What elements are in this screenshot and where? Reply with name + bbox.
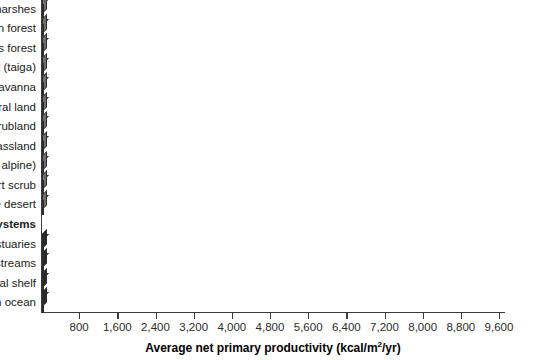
category-axis-labels: Swamps and marshesTropical rain forestTe… [0, 0, 40, 313]
category-label-savanna: Savanna [0, 82, 36, 94]
category-label-marine-ecosystems: Marine Ecosystems [0, 219, 36, 231]
bar-estuaries [42, 239, 433, 254]
x-tick-3200 [194, 313, 195, 319]
bar-savanna [42, 82, 171, 97]
bar-front-face [42, 200, 44, 215]
category-label-woodland-and-shrubland: Woodland and shrubland [0, 121, 36, 133]
x-tick-label-5600: 5,600 [294, 321, 323, 333]
x-tick-8000 [423, 313, 424, 319]
category-label-temperate-deciduous-forest: Temperate deciduous forest [0, 43, 36, 55]
x-tick-label-3200: 3,200 [179, 321, 208, 333]
chart-container: Swamps and marshesTropical rain forestTe… [0, 0, 546, 360]
x-axis-title-prefix: Average net primary productivity (kcal/m [145, 341, 377, 355]
category-label-tundra-arctic-and-alpine: Tundra (arctic and alpine) [0, 160, 36, 172]
x-axis-title-suffix: /yr) [382, 341, 401, 355]
x-tick-1600 [117, 313, 118, 319]
category-label-estuaries: Estuaries [0, 239, 36, 251]
bar-northern-coniferous-forest-taiga [42, 63, 195, 78]
category-label-temperate-grassland: Temperate grassland [0, 141, 36, 153]
x-tick-9600 [499, 313, 500, 319]
category-label-lakes-and-streams: Lakes and streams [0, 258, 36, 270]
bar-agricultural-land [42, 102, 166, 117]
x-tick-label-8000: 8,000 [408, 321, 437, 333]
bar-front-face [42, 297, 44, 312]
x-tick-5600 [308, 313, 309, 319]
x-tick-4000 [232, 313, 233, 319]
x-tick-6400 [346, 313, 347, 319]
bar-woodland-and-shrubland [42, 121, 157, 136]
bar-open-ocean [42, 297, 92, 312]
x-tick-label-8800: 8,800 [446, 321, 475, 333]
x-tick-label-2400: 2,400 [141, 321, 170, 333]
x-tick-7200 [385, 313, 386, 319]
bar-temperate-grassland [42, 141, 156, 156]
bar-extreme-desert [42, 200, 52, 215]
category-label-extreme-desert: Extreme desert [0, 199, 36, 211]
category-label-northern-coniferous-forest-taiga: Northern coniferous forest (taiga) [0, 62, 36, 74]
x-tick-label-4800: 4,800 [256, 321, 285, 333]
x-axis-title: Average net primary productivity (kcal/m… [0, 340, 546, 355]
category-label-tropical-rain-forest: Tropical rain forest [0, 23, 36, 35]
plot-area [41, 0, 505, 313]
bar-swamps-and-marshes [42, 4, 438, 19]
category-label-swamps-and-marshes: Swamps and marshes [0, 4, 36, 16]
x-tick-2400 [156, 313, 157, 319]
x-tick-4800 [270, 313, 271, 319]
bar-tropical-rain-forest [42, 24, 438, 39]
bar-tundra-arctic-and-alpine [42, 161, 133, 176]
x-tick-800 [79, 313, 80, 319]
category-label-agricultural-land: Agricultural land [0, 102, 36, 114]
x-tick-label-800: 800 [70, 321, 89, 333]
x-tick-label-7200: 7,200 [370, 321, 399, 333]
category-label-continental-shelf: Continental shelf [0, 278, 36, 290]
bar-temperate-deciduous-forest [42, 43, 300, 58]
x-tick-label-1600: 1,600 [103, 321, 132, 333]
category-label-desert-scrub: Desert scrub [0, 180, 36, 192]
bar-continental-shelf [42, 278, 111, 293]
x-tick-8800 [461, 313, 462, 319]
bar-lakes-and-streams [42, 258, 135, 273]
category-label-open-ocean: Open ocean [0, 297, 36, 309]
x-tick-label-9600: 9,600 [485, 321, 514, 333]
x-tick-label-4000: 4,000 [217, 321, 246, 333]
bars-layer [42, 0, 505, 312]
x-tick-label-6400: 6,400 [332, 321, 361, 333]
